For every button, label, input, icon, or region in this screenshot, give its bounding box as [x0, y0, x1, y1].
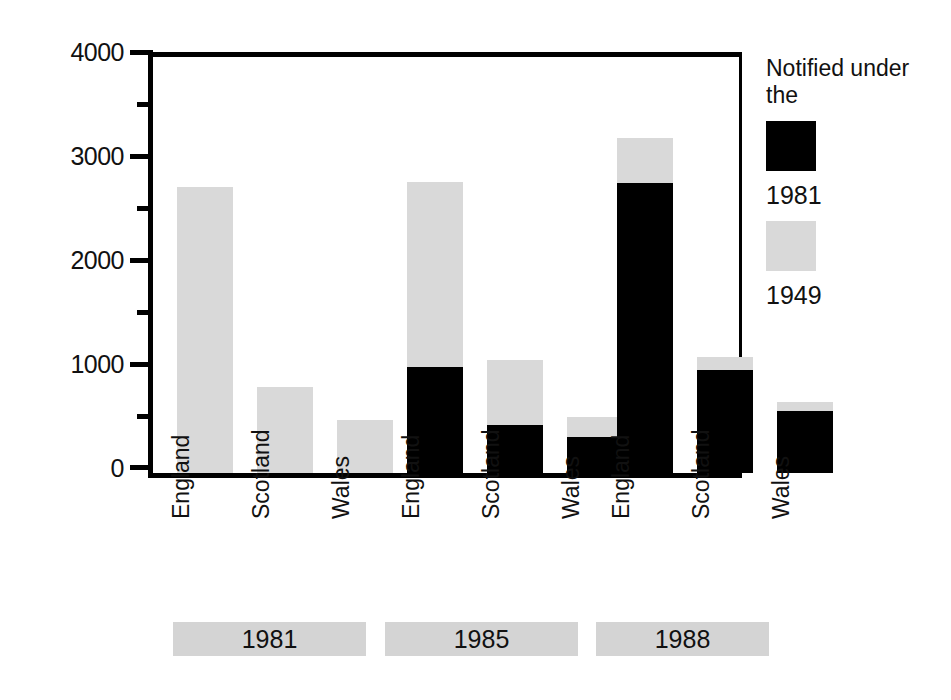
chart-legend: Notified underthe 1981 1949 [766, 55, 946, 309]
bar-segment-1949 [487, 360, 543, 425]
bar-england-1985[interactable] [407, 182, 463, 473]
bar-segment-1949 [777, 402, 833, 411]
bar-england-1988[interactable] [617, 138, 673, 473]
legend-swatch-1981 [766, 121, 816, 171]
bar-segment-1949 [177, 187, 233, 473]
y-tick-label-3000: 3000 [6, 144, 124, 169]
legend-swatch-1949 [766, 221, 816, 271]
bar-segment-1949 [617, 138, 673, 183]
x-label-scotland-1981: Scotland [250, 429, 273, 519]
x-label-wales-1985: Wales [560, 456, 583, 519]
group-band-1981: 1981 [173, 622, 366, 656]
y-tick-label-1000: 1000 [6, 352, 124, 377]
x-label-scotland-1985: Scotland [480, 429, 503, 519]
bar-england-1981[interactable] [177, 187, 233, 473]
x-label-wales-1988: Wales [770, 456, 793, 519]
group-band-1988: 1988 [596, 622, 769, 656]
x-label-scotland-1988: Scotland [690, 429, 713, 519]
bar-segment-1949 [407, 182, 463, 367]
bar-segment-1949 [697, 357, 753, 370]
x-label-england-1985: England [400, 435, 423, 519]
legend-label-1949: 1949 [766, 281, 946, 309]
group-band-1985: 1985 [385, 622, 578, 656]
chart-figure: 4000 3000 2000 1000 0 [0, 0, 951, 700]
y-tick-label-0: 0 [6, 456, 124, 481]
y-axis: 4000 3000 2000 1000 0 [0, 0, 124, 700]
x-label-england-1988: England [610, 435, 633, 519]
x-label-wales-1981: Wales [330, 456, 353, 519]
legend-title: Notified underthe [766, 55, 936, 109]
bar-segment-1981 [617, 183, 673, 473]
x-label-england-1981: England [170, 435, 193, 519]
y-tick-label-2000: 2000 [6, 248, 124, 273]
plot-area [153, 57, 739, 473]
y-tick-label-4000: 4000 [6, 40, 124, 65]
legend-label-1981: 1981 [766, 181, 946, 209]
